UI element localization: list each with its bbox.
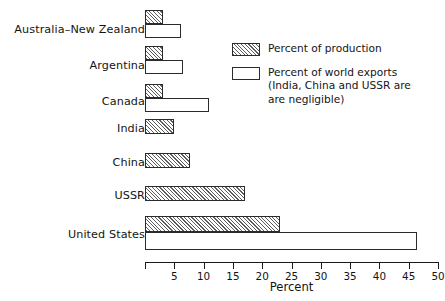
x-axis-tick-20	[262, 262, 263, 269]
x-axis-tick-10	[204, 262, 205, 269]
category-label-argentina: Argentina	[90, 59, 145, 72]
x-axis-tick-label-50: 50	[431, 270, 444, 282]
bar-production-china	[145, 153, 190, 168]
legend-item-exports: Percent of world exports (India, China a…	[232, 66, 442, 106]
x-axis-tick-5	[174, 262, 175, 269]
category-label-china: China	[113, 156, 145, 169]
x-axis-tick-label-30: 30	[314, 270, 327, 282]
x-axis-tick-50	[438, 262, 439, 269]
bar-production-australia-new-zealand	[145, 10, 163, 24]
category-label-canada: Canada	[102, 95, 145, 108]
x-axis-tick-35	[350, 262, 351, 269]
legend-label-production: Percent of production	[268, 42, 442, 55]
bar-exports-united-states	[145, 232, 417, 250]
x-axis-tick-label-45: 45	[402, 270, 415, 282]
bar-exports-canada	[145, 98, 209, 112]
bar-production-united-states	[145, 216, 280, 232]
legend-label-exports: Percent of world exports (India, China a…	[268, 66, 442, 106]
chart-legend: Percent of production Percent of world e…	[232, 42, 442, 117]
bar-production-india	[145, 119, 174, 134]
x-axis-tick-0	[145, 262, 146, 269]
legend-item-production: Percent of production	[232, 42, 442, 55]
category-label-australia-new-zealand: Australia–New Zealand	[14, 23, 145, 36]
legend-swatch-hatched	[232, 43, 260, 56]
x-axis-tick-label-10: 10	[197, 270, 210, 282]
x-axis-tick-label-35: 35	[343, 270, 356, 282]
bar-production-ussr	[145, 186, 245, 201]
x-axis-tick-45	[409, 262, 410, 269]
x-axis-tick-label-40: 40	[373, 270, 386, 282]
bar-exports-australia-new-zealand	[145, 24, 181, 38]
x-axis-tick-15	[233, 262, 234, 269]
bar-exports-argentina	[145, 60, 183, 74]
bar-production-argentina	[145, 46, 163, 60]
category-label-india: India	[117, 122, 145, 135]
bar-production-canada	[145, 84, 163, 98]
x-axis-tick-label-5: 5	[171, 270, 178, 282]
x-axis-tick-40	[379, 262, 380, 269]
x-axis-tick-30	[321, 262, 322, 269]
legend-swatch-open	[232, 67, 260, 80]
x-axis-tick-label-20: 20	[256, 270, 269, 282]
x-axis-title: Percent	[270, 280, 314, 294]
category-label-ussr: USSR	[114, 189, 145, 202]
category-label-united-states: United States	[68, 228, 145, 241]
x-axis-tick-label-15: 15	[226, 270, 239, 282]
x-axis-tick-25	[292, 262, 293, 269]
